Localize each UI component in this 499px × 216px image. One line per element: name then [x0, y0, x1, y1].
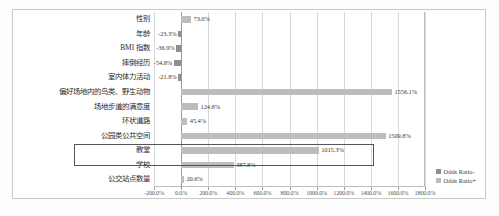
chart-row: 年龄-23.3% [0, 27, 499, 42]
legend-swatch-icon [436, 178, 441, 183]
category-label: 场地步道的满意度 [94, 100, 150, 115]
bar-value-label: 1509.8% [388, 129, 411, 144]
chart-row: 场地步道的满意度124.8% [0, 100, 499, 115]
bar [174, 60, 181, 67]
chart-row: 环状道路45.4% [0, 114, 499, 129]
bar [181, 103, 198, 110]
x-tick-label: 1000.0% [306, 189, 327, 196]
legend-label: Odds Ratio- [444, 168, 475, 175]
chart-legend: Odds Ratio-Odds Ratio+ [436, 167, 476, 185]
bar [181, 133, 386, 140]
legend-item: Odds Ratio- [436, 167, 476, 176]
bar-value-label: 387.8% [236, 158, 255, 173]
bar [181, 89, 392, 96]
bar-value-label: -21.8% [158, 70, 176, 85]
bar [181, 162, 234, 169]
x-tick-label: 1800.0% [415, 189, 436, 196]
category-label: 环状道路 [122, 114, 150, 129]
bar-value-label: 124.8% [201, 100, 220, 115]
legend-label: Odds Ratio+ [444, 177, 477, 184]
chart-row: 公园类公共空间1509.8% [0, 129, 499, 144]
x-tick-label: 0.0% [175, 189, 187, 196]
x-tick-label: 1200.0% [333, 189, 354, 196]
category-label: 性别 [136, 12, 150, 27]
category-label: 室内体力活动 [108, 70, 150, 85]
x-tick-label: 400.0% [226, 189, 244, 196]
odds-ratio-bar-chart: -200.0%0.0%200.0%400.0%600.0%800.0%1000.… [0, 0, 499, 216]
bar [181, 147, 319, 154]
bar [176, 45, 181, 52]
bar [178, 31, 181, 38]
category-label: 公交站点数量 [108, 172, 150, 187]
bar [178, 74, 181, 81]
category-label: 教堂 [136, 143, 150, 158]
x-tick-label: -200.0% [144, 189, 164, 196]
x-tick-label: 1600.0% [388, 189, 409, 196]
bar [181, 118, 187, 125]
bar-value-label: 45.4% [190, 114, 206, 129]
chart-row: 性别73.0% [0, 12, 499, 27]
x-tick-label: 200.0% [199, 189, 217, 196]
x-tick-label: 600.0% [253, 189, 271, 196]
chart-row: 摔倒经历-54.8% [0, 56, 499, 71]
bar [181, 16, 191, 23]
legend-swatch-icon [436, 169, 441, 174]
category-label: 摔倒经历 [122, 56, 150, 71]
bar [181, 176, 184, 183]
category-label: BMI 指数 [120, 41, 150, 56]
category-label: 偏好场地内的鸟类、野生动物 [59, 85, 150, 100]
legend-item: Odds Ratio+ [436, 176, 476, 185]
bar-value-label: 20.6% [186, 172, 202, 187]
bar-value-label: 1556.1% [394, 85, 417, 100]
category-label: 学校 [136, 158, 150, 173]
chart-row: 公交站点数量20.6% [0, 172, 499, 187]
bar-value-label: 1015.3% [321, 143, 344, 158]
bar-value-label: -36.9% [156, 41, 174, 56]
x-tick-label: 800.0% [281, 189, 299, 196]
bar-value-label: -23.3% [158, 27, 176, 42]
chart-row: 教堂1015.3% [0, 143, 499, 158]
category-label: 年龄 [136, 27, 150, 42]
chart-row: 学校387.8% [0, 158, 499, 173]
chart-row: 偏好场地内的鸟类、野生动物1556.1% [0, 85, 499, 100]
chart-row: BMI 指数-36.9% [0, 41, 499, 56]
category-label: 公园类公共空间 [101, 129, 150, 144]
bar-value-label: -54.8% [154, 56, 172, 71]
x-tick-label: 1400.0% [360, 189, 381, 196]
bar-value-label: 73.0% [193, 12, 209, 27]
chart-row: 室内体力活动-21.8% [0, 70, 499, 85]
